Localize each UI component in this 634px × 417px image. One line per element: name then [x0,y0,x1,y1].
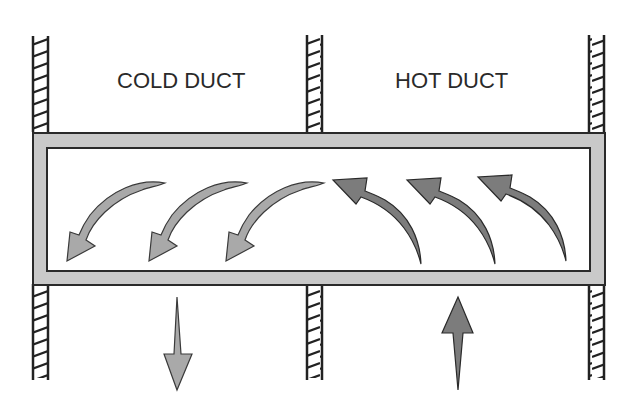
left-wall-upper [33,36,48,132]
hot-curved-arrow-2 [407,178,495,264]
right-wall-lower [589,284,604,380]
hot-inlet-up-arrow [442,297,473,390]
right-wall-upper [589,35,604,132]
center-wall-upper [307,35,322,132]
cold-curved-arrow-3 [226,182,324,261]
hot-curved-arrow-1 [333,178,421,264]
left-wall-lower [33,284,48,380]
center-wall-lower [307,284,322,380]
duct-frame [33,133,605,285]
cold-outlet-down-arrow [164,297,192,390]
duct-diagram [0,0,634,417]
